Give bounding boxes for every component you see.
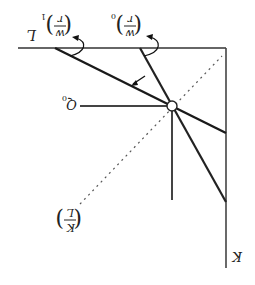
capital-labor-ray [80,56,222,204]
svg-text:L: L [27,27,37,43]
label-wage-rental-0: ( w r ) 0 [111,12,142,40]
label-isoquant-Q0: Q 0 [62,94,77,112]
label-wage-rental-1: ( w r ) 1 [41,12,72,40]
axis-label-K: K [231,249,243,264]
shift-arrow-icon [131,76,145,86]
svg-text:): ) [55,207,64,232]
svg-text:r: r [57,13,63,26]
label-capital-labor-ratio: ( K L ) [55,206,82,234]
svg-text:0: 0 [62,94,67,103]
equilibrium-point [167,101,177,111]
isocost-line-0 [140,48,226,202]
svg-text:w: w [55,27,65,40]
svg-text:1: 1 [41,12,46,21]
svg-text:L: L [67,206,75,219]
angle-arrow-0-icon [144,34,158,56]
svg-text:K: K [231,249,243,264]
isocost-line-1 [55,48,226,133]
svg-text:K: K [66,221,76,234]
svg-text:r: r [127,13,133,26]
svg-text:w: w [125,27,135,40]
axis-label-L: L [27,27,37,43]
svg-text:0: 0 [111,12,116,21]
isocost-diagram: L K ( w r ) 1 ( w r ) 0 Q 0 ( K L ) [0,0,255,285]
